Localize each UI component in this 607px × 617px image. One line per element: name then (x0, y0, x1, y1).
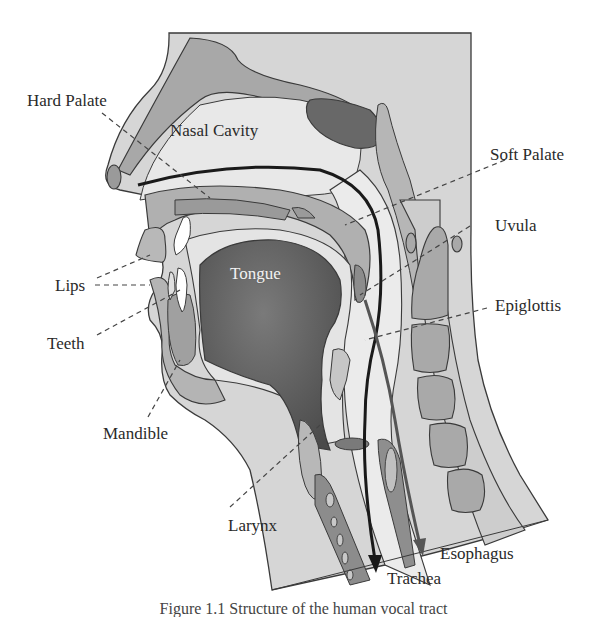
figure-caption: Figure 1.1 Structure of the human vocal … (0, 601, 607, 617)
label-mandible: Mandible (103, 425, 168, 442)
nostril (107, 165, 121, 189)
label-lips: Lips (55, 277, 85, 294)
label-larynx: Larynx (228, 517, 277, 534)
label-tongue: Tongue (230, 265, 281, 282)
label-hard-palate: Hard Palate (27, 92, 107, 109)
label-epiglottis: Epiglottis (495, 297, 561, 314)
upper-lip (136, 228, 166, 263)
label-trachea: Trachea (387, 570, 441, 587)
label-uvula: Uvula (495, 217, 537, 234)
label-esophagus: Esophagus (440, 545, 514, 562)
label-teeth: Teeth (47, 335, 85, 352)
label-soft-palate: Soft Palate (490, 146, 564, 163)
label-nasal-cavity: Nasal Cavity (170, 122, 258, 139)
